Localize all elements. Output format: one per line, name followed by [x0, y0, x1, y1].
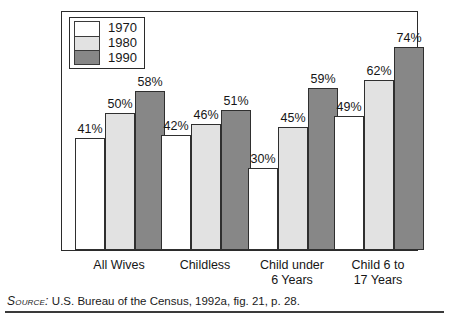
legend-swatch-stack [74, 21, 100, 65]
bar-rect [248, 168, 278, 250]
legend-label-stack: 1970 1980 1990 [108, 21, 137, 65]
bar-value-label: 50% [107, 98, 132, 111]
bar-1980-childless: 46% [191, 12, 221, 250]
bar-value-label: 74% [396, 32, 421, 45]
bar-1970-child-6-to-17-years: 49% [334, 12, 364, 250]
bar-rect [394, 47, 424, 250]
bar-group: 42%46%51% [161, 12, 251, 250]
source-text: U.S. Bureau of the Census, 1992a, fig. 2… [52, 295, 300, 307]
bar-1980-child-6-to-17-years: 62% [364, 12, 394, 250]
bar-value-label: 49% [336, 101, 361, 114]
bar-1980-child-under-6-years: 45% [278, 12, 308, 250]
bar-rect [334, 116, 364, 250]
bar-rect [221, 110, 251, 250]
bar-group: 49%62%74% [334, 12, 424, 250]
bar-rect [105, 113, 135, 250]
bar-1970-child-under-6-years: 30% [248, 12, 278, 250]
legend-swatch-1980 [75, 36, 99, 50]
legend-swatch-1990 [75, 50, 99, 64]
figure-bar-chart: 41%50%58%42%46%51%30%45%59%49%62%74% 197… [0, 0, 449, 321]
bar-rect [161, 135, 191, 250]
bar-1990-childless: 51% [221, 12, 251, 250]
bar-value-label: 51% [223, 95, 248, 108]
source-note: Source: U.S. Bureau of the Census, 1992a… [7, 294, 300, 308]
category-label-line: Child 6 to [318, 258, 438, 273]
bar-rect [278, 127, 308, 250]
bar-value-label: 30% [250, 153, 275, 166]
bar-value-label: 45% [280, 112, 305, 125]
bottom-divider [5, 311, 444, 313]
bar-value-label: 62% [366, 65, 391, 78]
bar-1970-childless: 42% [161, 12, 191, 250]
bar-rect [191, 124, 221, 250]
chart-legend: 1970 1980 1990 [69, 17, 145, 69]
bar-value-label: 42% [163, 120, 188, 133]
legend-swatch-1970 [75, 22, 99, 36]
legend-label-1990: 1990 [108, 51, 137, 65]
bar-value-label: 59% [310, 73, 335, 86]
bar-1990-child-6-to-17-years: 74% [394, 12, 424, 250]
category-label: Child 6 to17 Years [318, 258, 438, 288]
category-label-line: 17 Years [318, 273, 438, 288]
legend-label-1980: 1980 [108, 36, 137, 50]
bar-value-label: 41% [77, 123, 102, 136]
bar-value-label: 46% [193, 109, 218, 122]
bar-rect [75, 138, 105, 250]
bar-group: 30%45%59% [248, 12, 338, 250]
chart-plot-frame: 41%50%58%42%46%51%30%45%59%49%62%74% 197… [61, 11, 418, 251]
bar-rect [364, 80, 394, 250]
source-label: Source: [7, 294, 49, 308]
bar-value-label: 58% [137, 76, 162, 89]
legend-label-1970: 1970 [108, 21, 137, 35]
